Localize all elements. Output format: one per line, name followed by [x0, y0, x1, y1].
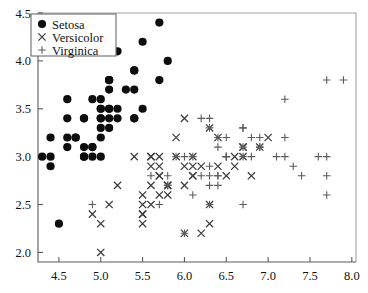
data-point-versicolor — [248, 172, 255, 179]
data-point-setosa — [105, 105, 113, 113]
x-tick-label: 8.0 — [344, 269, 360, 283]
data-point-virginica — [340, 76, 348, 84]
x-tick-label: 6.5 — [218, 269, 234, 283]
chart-legend: SetosaVersicolorVirginica — [31, 14, 116, 58]
series-versicolor — [89, 115, 272, 256]
data-point-versicolor — [106, 201, 113, 208]
legend-label-setosa: Setosa — [52, 18, 85, 32]
data-point-virginica — [222, 134, 230, 142]
data-point-setosa — [72, 133, 80, 141]
data-point-versicolor — [181, 182, 188, 189]
data-point-versicolor — [139, 191, 146, 198]
data-point-versicolor — [156, 191, 163, 198]
data-point-virginica — [197, 172, 205, 180]
data-point-virginica — [239, 124, 247, 132]
data-point-setosa — [88, 143, 96, 151]
data-point-setosa — [97, 105, 105, 113]
data-point-setosa — [63, 143, 71, 151]
data-point-setosa — [38, 153, 46, 161]
data-point-versicolor — [231, 163, 238, 170]
data-point-versicolor — [139, 201, 146, 208]
data-point-virginica — [181, 153, 189, 161]
data-point-setosa — [97, 133, 105, 141]
data-point-setosa — [97, 95, 105, 103]
data-point-versicolor — [156, 172, 163, 179]
data-point-virginica — [248, 134, 256, 142]
x-tick-label: 5.5 — [135, 269, 151, 283]
data-point-virginica — [323, 191, 331, 199]
data-point-setosa — [46, 153, 54, 161]
y-axis-tick-labels: 2.02.53.03.54.04.5 — [15, 7, 31, 260]
data-point-virginica — [156, 201, 164, 209]
data-point-virginica — [222, 153, 230, 161]
data-point-setosa — [80, 143, 88, 151]
data-point-versicolor — [206, 220, 213, 227]
x-axis-tick-labels: 4.55.05.56.06.57.07.58.0 — [51, 269, 360, 283]
scatter-plot-figure: 4.55.05.56.06.57.07.58.0 2.02.53.03.54.0… — [0, 0, 368, 293]
data-point-versicolor — [189, 163, 196, 170]
data-point-setosa — [139, 105, 147, 113]
data-point-setosa — [130, 86, 138, 94]
data-point-virginica — [323, 76, 331, 84]
y-tick-label: 4.5 — [15, 7, 31, 21]
data-point-versicolor — [139, 220, 146, 227]
data-point-versicolor — [97, 220, 104, 227]
data-point-virginica — [214, 172, 222, 180]
y-tick-label: 2.5 — [15, 198, 31, 212]
data-point-versicolor — [223, 172, 230, 179]
data-point-setosa — [63, 133, 71, 141]
data-point-versicolor — [139, 211, 146, 218]
y-tick-label: 3.0 — [15, 150, 31, 164]
data-point-versicolor — [172, 134, 179, 141]
data-point-virginica — [89, 201, 97, 209]
data-point-versicolor — [114, 182, 121, 189]
data-point-versicolor — [156, 153, 163, 160]
data-point-setosa — [105, 86, 113, 94]
data-point-virginica — [281, 95, 289, 103]
data-point-versicolor — [198, 163, 205, 170]
data-point-versicolor — [147, 201, 154, 208]
data-point-setosa — [97, 114, 105, 122]
data-point-setosa — [105, 124, 113, 132]
data-point-virginica — [289, 162, 297, 170]
data-point-setosa — [122, 86, 130, 94]
y-tick-label: 4.0 — [15, 54, 31, 68]
data-point-versicolor — [147, 153, 154, 160]
data-point-versicolor — [231, 153, 238, 160]
data-point-versicolor — [147, 182, 154, 189]
data-point-virginica — [206, 162, 214, 170]
data-point-virginica — [206, 172, 214, 180]
x-tick-label: 5.0 — [93, 269, 109, 283]
data-point-versicolor — [198, 230, 205, 237]
data-point-setosa — [97, 153, 105, 161]
data-point-setosa — [63, 95, 71, 103]
data-point-virginica — [214, 143, 222, 151]
data-point-setosa — [63, 114, 71, 122]
data-point-versicolor — [214, 163, 221, 170]
data-point-setosa — [55, 220, 63, 228]
data-point-virginica — [189, 191, 197, 199]
plot-canvas: 4.55.05.56.06.57.07.58.0 2.02.53.03.54.0… — [0, 0, 368, 293]
data-point-virginica — [323, 172, 331, 180]
data-point-virginica — [256, 134, 264, 142]
data-point-versicolor — [89, 211, 96, 218]
data-point-setosa — [130, 66, 138, 74]
x-tick-label: 7.5 — [302, 269, 318, 283]
data-point-virginica — [214, 182, 222, 190]
y-tick-label: 3.5 — [15, 102, 31, 116]
data-point-versicolor — [147, 163, 154, 170]
data-point-setosa — [80, 114, 88, 122]
data-point-versicolor — [265, 134, 272, 141]
data-point-setosa — [155, 76, 163, 84]
data-point-setosa — [139, 38, 147, 46]
data-point-versicolor — [131, 153, 138, 160]
data-point-setosa — [88, 153, 96, 161]
x-tick-label: 7.0 — [260, 269, 276, 283]
y-tick-label: 2.0 — [15, 246, 31, 260]
data-point-versicolor — [97, 249, 104, 256]
x-tick-label: 6.0 — [177, 269, 193, 283]
data-point-setosa — [113, 114, 121, 122]
data-point-virginica — [206, 182, 214, 190]
data-point-virginica — [248, 153, 256, 161]
data-point-versicolor — [189, 172, 196, 179]
